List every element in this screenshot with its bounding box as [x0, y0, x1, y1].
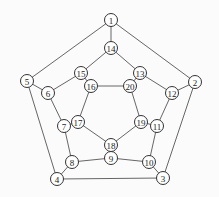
- node-12: 12: [166, 87, 179, 100]
- node-6: 6: [42, 87, 55, 100]
- node-label: 9: [109, 154, 114, 164]
- node-label: 3: [161, 174, 166, 184]
- edge-5-1: [27, 20, 111, 81]
- node-label: 18: [107, 141, 117, 151]
- node-label: 19: [137, 118, 147, 128]
- edge-3-4: [57, 178, 163, 179]
- node-label: 14: [107, 44, 117, 54]
- node-4: 4: [51, 173, 64, 186]
- node-label: 8: [70, 158, 75, 168]
- node-11: 11: [151, 120, 164, 133]
- node-label: 16: [87, 82, 97, 92]
- node-18: 18: [105, 139, 118, 152]
- node-10: 10: [143, 156, 156, 169]
- node-label: 20: [126, 82, 136, 92]
- node-1: 1: [105, 14, 118, 27]
- node-5: 5: [21, 75, 34, 88]
- node-9: 9: [105, 152, 118, 165]
- node-7: 7: [58, 120, 71, 133]
- node-label: 15: [77, 69, 87, 79]
- node-label: 5: [25, 77, 30, 87]
- node-16: 16: [85, 80, 98, 93]
- node-15: 15: [75, 67, 88, 80]
- node-label: 4: [55, 175, 60, 185]
- node-3: 3: [157, 172, 170, 185]
- node-label: 17: [74, 118, 84, 128]
- dodecahedron-graph: 1234567891011121314151617181920: [0, 0, 219, 197]
- node-label: 12: [168, 89, 177, 99]
- edge-1-2: [111, 20, 195, 82]
- node-label: 13: [136, 69, 146, 79]
- node-label: 6: [46, 89, 51, 99]
- node-19: 19: [135, 116, 148, 129]
- node-label: 10: [145, 158, 155, 168]
- node-label: 2: [193, 78, 198, 88]
- node-label: 11: [153, 122, 162, 132]
- node-20: 20: [124, 80, 137, 93]
- node-13: 13: [134, 67, 147, 80]
- node-14: 14: [105, 42, 118, 55]
- node-17: 17: [72, 116, 85, 129]
- node-label: 1: [109, 16, 114, 26]
- node-8: 8: [66, 156, 79, 169]
- node-label: 7: [62, 122, 67, 132]
- node-2: 2: [189, 76, 202, 89]
